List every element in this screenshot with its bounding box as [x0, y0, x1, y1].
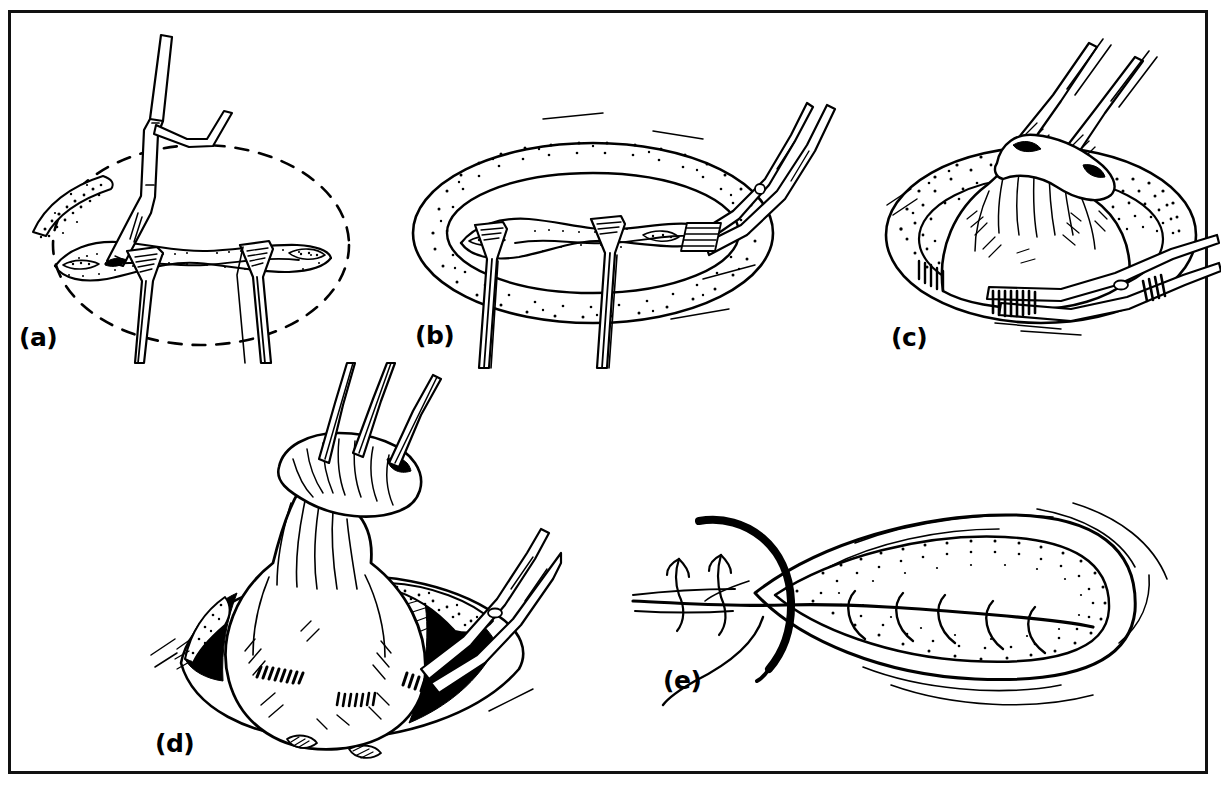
panel-label-a: (a) [19, 325, 57, 350]
needle-tip-e [757, 669, 769, 681]
retractor-right [237, 241, 273, 363]
panel-d: (d) [141, 363, 561, 775]
panel-e: (e) [623, 483, 1203, 723]
panel-label-b: (b) [415, 323, 454, 348]
toothed-forceps [107, 35, 232, 266]
panel-label-d: (d) [155, 731, 194, 756]
panel-e-drawing [623, 483, 1203, 723]
wound-slit-lower [55, 258, 331, 280]
panel-c: (c) [871, 23, 1221, 363]
wound-pocket-right [289, 249, 325, 259]
knotted-sutures-e [667, 555, 731, 635]
wound-pocket-left [63, 260, 99, 269]
panel-b-drawing [403, 83, 843, 368]
figure-frame: (a) [8, 10, 1208, 774]
mobilised-mass-d [226, 489, 426, 749]
panel-b: (b) [403, 83, 843, 368]
panel-label-e: (e) [663, 668, 701, 693]
panel-a-drawing [11, 13, 401, 363]
panel-label-c: (c) [891, 325, 927, 350]
panel-a: (a) [11, 13, 401, 363]
panel-d-drawing [141, 363, 561, 775]
retractor-left [127, 247, 163, 363]
panel-c-drawing [871, 23, 1221, 363]
